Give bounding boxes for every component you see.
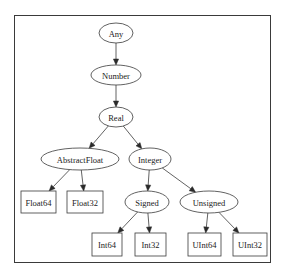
arrowhead-icon	[146, 227, 151, 233]
edge-line	[219, 212, 235, 228]
edge-unsigned-to-uint32	[219, 212, 239, 233]
edge-integer-to-signed	[146, 170, 151, 191]
node-float32: Float32	[67, 191, 103, 213]
arrowhead-icon	[136, 143, 142, 149]
edge-unsigned-to-uint64	[204, 213, 209, 233]
arrowhead-icon	[113, 59, 118, 65]
node-abstractfloat: AbstractFloat	[41, 148, 119, 170]
edge-signed-to-int32	[146, 213, 151, 233]
edge-line	[162, 168, 191, 189]
node-label: Unsigned	[193, 198, 226, 208]
arrowhead-icon	[146, 185, 151, 191]
node-label: Integer	[138, 155, 162, 165]
node-label: UInt32	[238, 240, 262, 250]
edge-signed-to-int64	[118, 212, 138, 233]
edge-real-to-abstractfloat	[89, 126, 108, 148]
node-number: Number	[91, 65, 141, 85]
edge-line	[123, 126, 138, 144]
node-label: Float32	[72, 198, 98, 208]
node-any: Any	[99, 23, 133, 43]
arrowhead-icon	[204, 227, 209, 233]
edge-line	[206, 213, 207, 227]
node-label: Number	[102, 71, 130, 81]
node-label: Float64	[26, 198, 53, 208]
node-label: AbstractFloat	[57, 155, 104, 165]
node-label: UInt64	[192, 240, 217, 250]
node-label: Signed	[135, 198, 159, 208]
edge-line	[122, 212, 138, 229]
node-label: Int32	[142, 240, 160, 250]
node-int64: Int64	[92, 233, 122, 256]
node-uint32: UInt32	[233, 233, 267, 256]
arrowhead-icon	[189, 187, 195, 193]
edge-number-to-real	[113, 85, 118, 107]
edge-abstractfloat-to-float64	[49, 170, 70, 191]
arrowhead-icon	[80, 185, 85, 191]
node-float64: Float64	[21, 191, 56, 213]
edge-real-to-integer	[123, 126, 141, 149]
edge-line	[148, 213, 149, 227]
node-label: Int64	[98, 240, 117, 250]
node-integer: Integer	[129, 148, 171, 170]
edge-abstractfloat-to-float32	[80, 170, 85, 191]
edge-line	[81, 170, 83, 185]
edge-integer-to-unsigned	[162, 168, 195, 192]
edge-any-to-number	[113, 43, 118, 65]
edge-line	[93, 126, 108, 144]
edge-line	[53, 170, 69, 187]
nodes-layer: AnyNumberRealAbstractFloatIntegerFloat64…	[21, 23, 267, 256]
node-label: Real	[108, 113, 124, 123]
type-hierarchy-graph: AnyNumberRealAbstractFloatIntegerFloat64…	[0, 0, 285, 277]
arrowhead-icon	[113, 101, 118, 107]
edge-line	[148, 170, 149, 185]
node-unsigned: Unsigned	[180, 191, 238, 213]
node-uint64: UInt64	[188, 233, 221, 256]
node-int32: Int32	[135, 233, 166, 256]
node-signed: Signed	[125, 191, 169, 213]
node-real: Real	[99, 107, 133, 127]
node-label: Any	[109, 29, 124, 39]
